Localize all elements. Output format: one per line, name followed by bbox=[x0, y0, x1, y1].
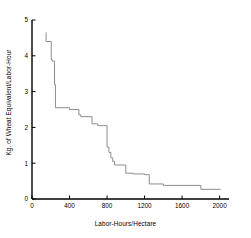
figure: 0400800120016002000 012345 Kg. of Wheat … bbox=[0, 0, 251, 238]
y-axis-tick-labels: 012345 bbox=[24, 16, 28, 202]
step-chart: 0400800120016002000 012345 bbox=[0, 0, 251, 238]
y-tick-label: 5 bbox=[24, 16, 28, 23]
y-tick-label: 3 bbox=[24, 88, 28, 95]
y-tick-label: 0 bbox=[24, 195, 28, 202]
data-series-line bbox=[46, 33, 220, 190]
x-tick-label: 2000 bbox=[213, 202, 228, 209]
x-axis-label: Labor-Hours/Hectare bbox=[0, 220, 251, 227]
y-axis-label-container: Kg. of Wheat Equivalent/Labor-Hour bbox=[0, 0, 16, 205]
x-tick-label: 0 bbox=[30, 202, 34, 209]
y-axis-label: Kg. of Wheat Equivalent/Labor-Hour bbox=[5, 49, 12, 155]
x-tick-label: 400 bbox=[64, 202, 75, 209]
y-tick-label: 4 bbox=[24, 52, 28, 59]
y-tick-label: 2 bbox=[24, 124, 28, 131]
x-tick-label: 1200 bbox=[137, 202, 152, 209]
x-tick-label: 800 bbox=[102, 202, 113, 209]
x-tick-label: 1600 bbox=[175, 202, 190, 209]
y-tick-label: 1 bbox=[24, 160, 28, 167]
x-axis-tick-labels: 0400800120016002000 bbox=[30, 202, 227, 209]
